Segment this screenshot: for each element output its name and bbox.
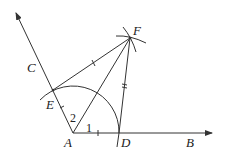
diagram-canvas: [0, 0, 225, 155]
label-B: B: [186, 136, 194, 149]
point-F: [129, 37, 132, 40]
label-A: A: [64, 136, 72, 149]
tick-DF-2: [122, 87, 127, 88]
label-F: F: [133, 24, 141, 37]
label-angle-2: 2: [70, 112, 76, 124]
point-E: [52, 89, 55, 92]
tick-DF-1: [122, 84, 127, 85]
label-C: C: [27, 61, 36, 74]
label-D: D: [121, 136, 130, 149]
segment-AF: [73, 38, 130, 133]
label-angle-1: 1: [86, 122, 92, 134]
arc-center-A: [40, 86, 119, 147]
segment-DF: [119, 38, 130, 133]
ray-AC: [16, 13, 73, 133]
label-E: E: [46, 98, 54, 111]
construction-diagram: F C E A D B 2 1: [0, 0, 225, 155]
segment-EF: [53, 38, 130, 90]
